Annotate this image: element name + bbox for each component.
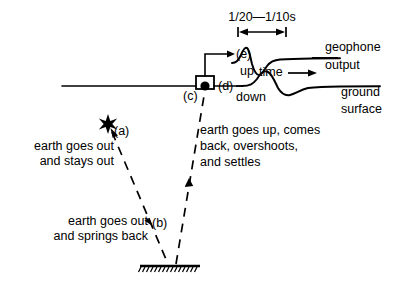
seismic-reflection-figure: 1/20—1/10s geophone output ground surfac… [0,0,410,285]
time-axis-arrowhead [308,69,317,76]
down-label: down [236,90,266,105]
note-up-line3: and settles [200,155,260,170]
note-b-line1: earth goes out [30,214,148,229]
reflector-hatching [139,267,198,272]
ground-surface-label-line1: ground [341,85,380,100]
note-up-line1: earth goes up, comes [200,123,320,138]
label-e: (e) [236,47,251,62]
geophone-dot [200,81,209,90]
dashed-ray-downgoing [112,132,168,264]
note-a-line2: and stays out [6,154,114,169]
up-label: up [240,64,254,79]
time-axis-label: time [259,65,283,80]
duration-arrowhead-left [239,28,248,35]
geophone-output-label-line1: geophone [325,40,381,55]
label-d: (d) [218,79,233,94]
note-b-line2: and springs back [30,229,148,244]
geophone-output-label-line2: output [325,58,360,73]
note-up-line2: back, overshoots, [200,139,298,154]
ray-arrowhead-up [185,178,194,187]
ground-surface-label-line2: surface [341,102,382,117]
note-a-line1: earth goes out [6,139,114,154]
label-b: (b) [152,216,167,231]
geophone-to-output-leader [205,54,228,76]
label-c: (c) [183,89,198,104]
label-a: (a) [114,124,129,139]
duration-scale-label: 1/20—1/10s [202,10,322,25]
duration-arrowhead-right [276,28,285,35]
leader-arrowhead-e [227,51,235,58]
